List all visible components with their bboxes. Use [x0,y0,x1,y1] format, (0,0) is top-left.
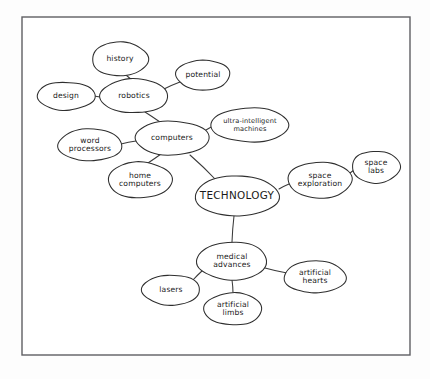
node-space-exploration[interactable]: spaceexploration [288,162,352,198]
node-artificial-hearts[interactable]: artificialhearts [284,261,346,293]
node-ultra-intelligent-machines[interactable]: ultra-intelligentmachines [211,108,289,142]
mindmap-canvas: TECHNOLOGYcomputersspaceexplorationmedic… [0,0,430,379]
node-label-home-computers: computers [119,179,161,188]
node-computers[interactable]: computers [135,121,209,155]
node-label-lasers: lasers [159,285,182,294]
node-label-technology: TECHNOLOGY [199,189,275,201]
node-label-ultra-intelligent-machines: ultra-intelligent [223,117,277,125]
node-potential[interactable]: potential [176,60,230,90]
node-label-design: design [53,91,79,100]
node-label-artificial-hearts: hearts [302,276,327,285]
node-label-robotics: robotics [118,91,150,100]
node-label-ultra-intelligent-machines: machines [234,125,267,133]
node-label-potential: potential [185,70,220,79]
node-label-medical-advances: advances [213,260,250,269]
node-label-artificial-limbs: limbs [222,308,243,317]
node-label-space-exploration: exploration [298,179,343,188]
node-label-space-labs: labs [368,166,384,175]
node-label-computers: computers [151,133,193,142]
node-label-history: history [106,54,134,63]
node-technology[interactable]: TECHNOLOGY [195,176,279,216]
mindmap-diagram: TECHNOLOGYcomputersspaceexplorationmedic… [0,0,430,379]
node-word-processors[interactable]: wordprocessors [58,129,122,161]
node-label-word-processors: processors [69,144,111,153]
